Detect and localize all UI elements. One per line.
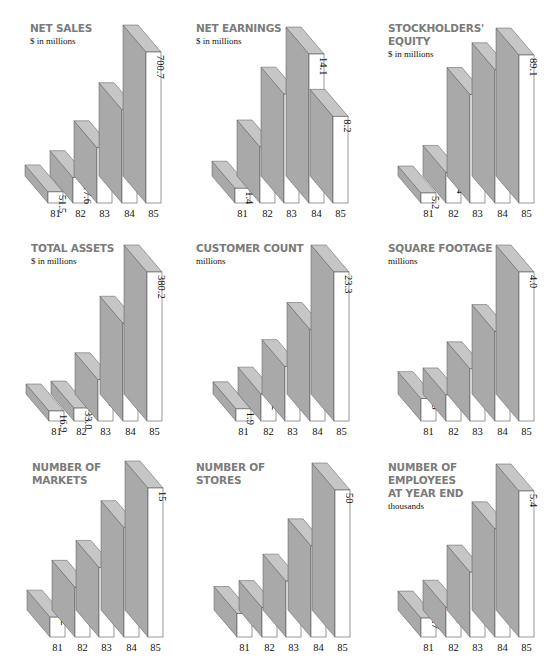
x-tick-label: 85 xyxy=(521,642,532,653)
x-tick-label: 85 xyxy=(150,642,161,653)
bar-front-face xyxy=(335,490,350,637)
chart-subtitle: $ in millions xyxy=(388,49,434,59)
x-tick-label: 82 xyxy=(262,208,273,219)
chart-title: NET SALES xyxy=(30,22,92,35)
bars-total-assets: 16.98133.082105.283249.484380.285 xyxy=(26,245,167,437)
x-tick-label: 81 xyxy=(423,208,434,219)
bar-side-face xyxy=(311,245,334,421)
x-tick-label: 82 xyxy=(75,208,86,219)
bar-value-label: 89.1 xyxy=(528,58,539,76)
chart-subtitle: $ in millions xyxy=(196,36,242,46)
x-tick-label: 85 xyxy=(337,642,348,653)
bar-front-face xyxy=(519,55,534,203)
x-tick-label: 84 xyxy=(497,208,508,219)
x-tick-label: 83 xyxy=(472,426,483,437)
bars-net-earnings: 1.4815.38210.38314.1848.285 xyxy=(212,27,353,219)
bar-side-face xyxy=(312,463,335,637)
bar-value-label: 8.2 xyxy=(342,119,353,132)
x-tick-label: 83 xyxy=(288,642,299,653)
bars-number-of-stores: 8811082198331845085 xyxy=(214,463,355,653)
x-tick-label: 84 xyxy=(125,426,136,437)
x-tick-label: 82 xyxy=(264,642,275,653)
x-tick-label: 81 xyxy=(51,426,62,437)
chart-title: NET EARNINGS xyxy=(196,22,281,35)
x-tick-label: 82 xyxy=(263,426,274,437)
x-tick-label: 83 xyxy=(286,208,297,219)
x-tick-label: 82 xyxy=(76,426,87,437)
bar-side-face xyxy=(286,27,309,203)
chart-title: CUSTOMER COUNT xyxy=(196,242,304,255)
bar-value-label: 700.7 xyxy=(155,55,166,79)
bar-side-face xyxy=(496,28,519,203)
bar-side-face xyxy=(496,245,519,421)
bars-number-of-markets: 28158278311841585 xyxy=(27,461,168,653)
x-tick-label: 81 xyxy=(50,208,61,219)
chart-subtitle: millions xyxy=(388,256,418,266)
chart-title: NUMBER OF STORES xyxy=(196,461,265,487)
bars-net-sales: 51.581117.682256.283432.884700.785 xyxy=(25,25,166,219)
x-tick-label: 83 xyxy=(287,426,298,437)
bar-value-label: 5.4 xyxy=(528,494,539,508)
x-tick-label: 82 xyxy=(448,426,459,437)
x-tick-label: 84 xyxy=(312,426,323,437)
bars-square-footage: .681.7821.4832.4844.085 xyxy=(398,245,539,437)
bar-front-face xyxy=(519,491,534,637)
charts-grid: 51.581117.682256.283432.884700.7851.4815… xyxy=(0,0,557,672)
chart-subtitle: $ in millions xyxy=(31,256,77,266)
x-tick-label: 85 xyxy=(521,426,532,437)
chart-title: NUMBER OF MARKETS xyxy=(32,461,101,487)
x-tick-label: 83 xyxy=(472,208,483,219)
chart-subtitle: $ in millions xyxy=(30,36,76,46)
x-tick-label: 82 xyxy=(448,642,459,653)
x-tick-label: 82 xyxy=(77,642,88,653)
chart-title: STOCKHOLDERS' EQUITY xyxy=(388,22,484,48)
bar-front-face xyxy=(334,272,349,421)
bar-value-label: 4.0 xyxy=(528,275,539,288)
x-tick-label: 85 xyxy=(521,208,532,219)
x-tick-label: 84 xyxy=(313,642,324,653)
x-tick-label: 81 xyxy=(239,642,250,653)
bar-side-face xyxy=(496,464,519,637)
bar-value-label: 50 xyxy=(344,493,355,504)
bar-side-face xyxy=(125,461,148,637)
bar-value-label: 380.2 xyxy=(156,275,167,299)
x-tick-label: 84 xyxy=(124,208,135,219)
bar-front-face xyxy=(519,272,534,421)
x-tick-label: 84 xyxy=(126,642,137,653)
x-tick-label: 83 xyxy=(472,642,483,653)
x-tick-label: 84 xyxy=(497,426,508,437)
chart-title: TOTAL ASSETS xyxy=(31,242,114,255)
x-tick-label: 82 xyxy=(448,208,459,219)
x-tick-label: 81 xyxy=(52,642,63,653)
x-tick-label: 83 xyxy=(99,208,110,219)
bar-side-face xyxy=(472,43,495,203)
x-tick-label: 81 xyxy=(423,426,434,437)
x-tick-label: 83 xyxy=(101,642,112,653)
x-tick-label: 85 xyxy=(149,426,160,437)
bar-side-face xyxy=(123,25,146,203)
x-tick-label: 85 xyxy=(335,208,346,219)
x-tick-label: 81 xyxy=(237,208,248,219)
bar-value-label: 14.1 xyxy=(318,57,329,75)
chart-subtitle: thousands xyxy=(388,501,424,511)
x-tick-label: 85 xyxy=(148,208,159,219)
bars-customer-count: 1.9814.2828.58314.38423.385 xyxy=(213,245,354,437)
bar-side-face xyxy=(124,245,147,421)
x-tick-label: 83 xyxy=(100,426,111,437)
chart-title: NUMBER OF EMPLOYEES AT YEAR END xyxy=(388,461,463,500)
bar-value-label: 1.9 xyxy=(245,412,256,425)
x-tick-label: 81 xyxy=(238,426,249,437)
chart-title: SQUARE FOOTAGE xyxy=(388,242,492,255)
bar-value-label: 23.3 xyxy=(343,275,354,293)
x-tick-label: 85 xyxy=(336,426,347,437)
x-tick-label: 84 xyxy=(311,208,322,219)
bar-value-label: 15 xyxy=(157,491,168,502)
x-tick-label: 81 xyxy=(423,642,434,653)
chart-subtitle: millions xyxy=(196,256,226,266)
x-tick-label: 84 xyxy=(497,642,508,653)
bar-front-face xyxy=(148,488,163,637)
charts-canvas: 51.581117.682256.283432.884700.7851.4815… xyxy=(0,0,557,672)
